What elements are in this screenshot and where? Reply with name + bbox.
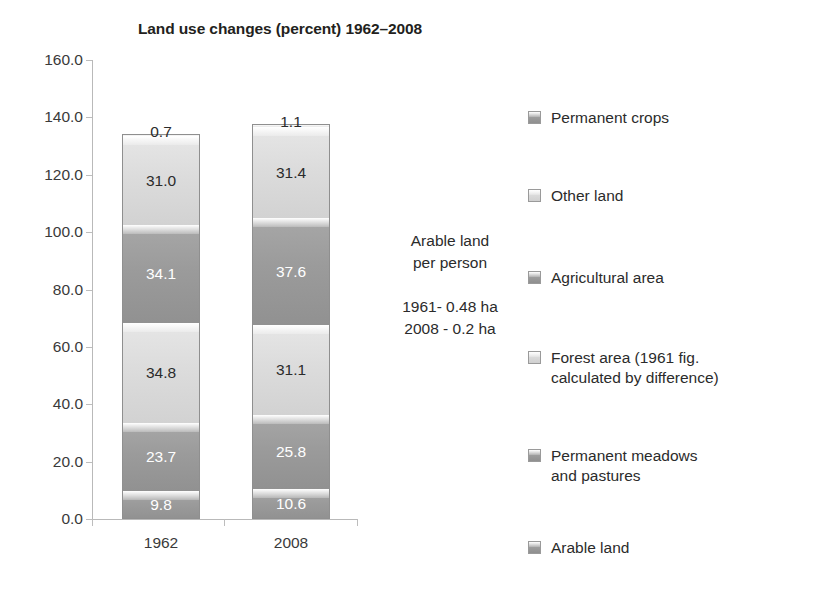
legend-item-label: Arable land: [551, 538, 629, 558]
y-axis-tick: [86, 404, 92, 405]
bar-segment-value: 34.1: [146, 266, 176, 282]
bar-segment[interactable]: 31.4: [252, 127, 330, 217]
legend-item[interactable]: Permanent meadows and pastures: [528, 446, 697, 487]
y-axis-tick-label: 0.0: [61, 510, 83, 528]
y-axis-tick-label: 120.0: [44, 166, 83, 184]
legend-item-label: Agricultural area: [551, 268, 664, 288]
bar-segment[interactable]: 25.8: [252, 415, 330, 489]
annotation-line-3: 1961- 0.48 ha: [370, 296, 530, 318]
x-axis-category-label: 1962: [144, 534, 178, 552]
legend-item[interactable]: Agricultural area: [528, 268, 664, 288]
bar-segment-value: 34.8: [146, 365, 176, 381]
bar-segment-value: 9.8: [150, 497, 172, 513]
bar-segment[interactable]: 10.6: [252, 489, 330, 519]
legend-item[interactable]: Arable land: [528, 538, 629, 558]
x-axis-tick: [224, 519, 225, 526]
y-axis-tick-label: 140.0: [44, 108, 83, 126]
legend-item[interactable]: Other land: [528, 186, 623, 206]
bar-segment[interactable]: 9.8: [122, 491, 200, 519]
annotation-line-1: Arable land: [370, 230, 530, 252]
bar-segment-value: 10.6: [276, 496, 306, 512]
legend-swatch-icon: [528, 541, 541, 554]
y-axis-tick: [86, 60, 92, 61]
y-axis-tick: [86, 117, 92, 118]
bar-segment-value: 37.6: [276, 264, 306, 280]
legend-swatch-icon: [528, 351, 541, 364]
plot-area: 160.0140.0120.0100.080.060.040.020.00.0 …: [92, 60, 357, 520]
bar-segment[interactable]: 37.6: [252, 218, 330, 326]
y-axis-tick-label: 60.0: [53, 338, 83, 356]
legend-swatch-icon: [528, 189, 541, 202]
y-axis-tick: [86, 347, 92, 348]
legend-swatch-icon: [528, 271, 541, 284]
x-axis-category-label: 2008: [274, 534, 308, 552]
bar-segment[interactable]: 31.0: [122, 136, 200, 225]
bar-segment-value: 31.1: [276, 362, 306, 378]
bar-top-value: 0.7: [122, 124, 200, 140]
x-axis-tick: [92, 519, 93, 526]
legend-item[interactable]: Forest area (1961 fig. calculated by dif…: [528, 348, 719, 389]
y-axis-tick-label: 40.0: [53, 395, 83, 413]
y-axis-tick: [86, 462, 92, 463]
bar-segment-value: 31.4: [276, 165, 306, 181]
bar-segment[interactable]: 34.8: [122, 323, 200, 423]
bar-top-value: 1.1: [252, 114, 330, 130]
legend-item[interactable]: Permanent crops: [528, 108, 669, 128]
stacked-bar[interactable]: 31.437.631.125.810.61.1: [252, 124, 330, 519]
legend-swatch-icon: [528, 449, 541, 462]
annotation-line-2: per person: [370, 252, 530, 274]
bar-segment-value: 25.8: [276, 444, 306, 460]
y-axis-tick: [86, 232, 92, 233]
y-axis-tick-label: 100.0: [44, 223, 83, 241]
y-axis-line: [92, 60, 93, 520]
legend-item-label: Permanent crops: [551, 108, 669, 128]
bar-segment[interactable]: 31.1: [252, 325, 330, 414]
y-axis-tick-label: 20.0: [53, 453, 83, 471]
y-axis-tick: [86, 290, 92, 291]
bar-segment[interactable]: 34.1: [122, 225, 200, 323]
legend-item-label: Permanent meadows and pastures: [551, 446, 697, 487]
bar-segment-value: 31.0: [146, 173, 176, 189]
annotation-spacer: [370, 274, 530, 296]
y-axis-tick-label: 160.0: [44, 51, 83, 69]
bar-segment[interactable]: 23.7: [122, 423, 200, 491]
y-axis-tick-label: 80.0: [53, 281, 83, 299]
bar-segment-value: 23.7: [146, 449, 176, 465]
legend-item-label: Forest area (1961 fig. calculated by dif…: [551, 348, 719, 389]
legend-swatch-icon: [528, 111, 541, 124]
x-axis-tick: [357, 519, 358, 526]
legend-item-label: Other land: [551, 186, 623, 206]
annotation-line-4: 2008 - 0.2 ha: [370, 318, 530, 340]
chart-title: Land use changes (percent) 1962–2008: [0, 20, 560, 38]
annotation-block: Arable land per person 1961- 0.48 ha 200…: [370, 230, 530, 340]
stacked-bar[interactable]: 31.034.134.823.79.80.7: [122, 134, 200, 519]
y-axis-tick: [86, 175, 92, 176]
